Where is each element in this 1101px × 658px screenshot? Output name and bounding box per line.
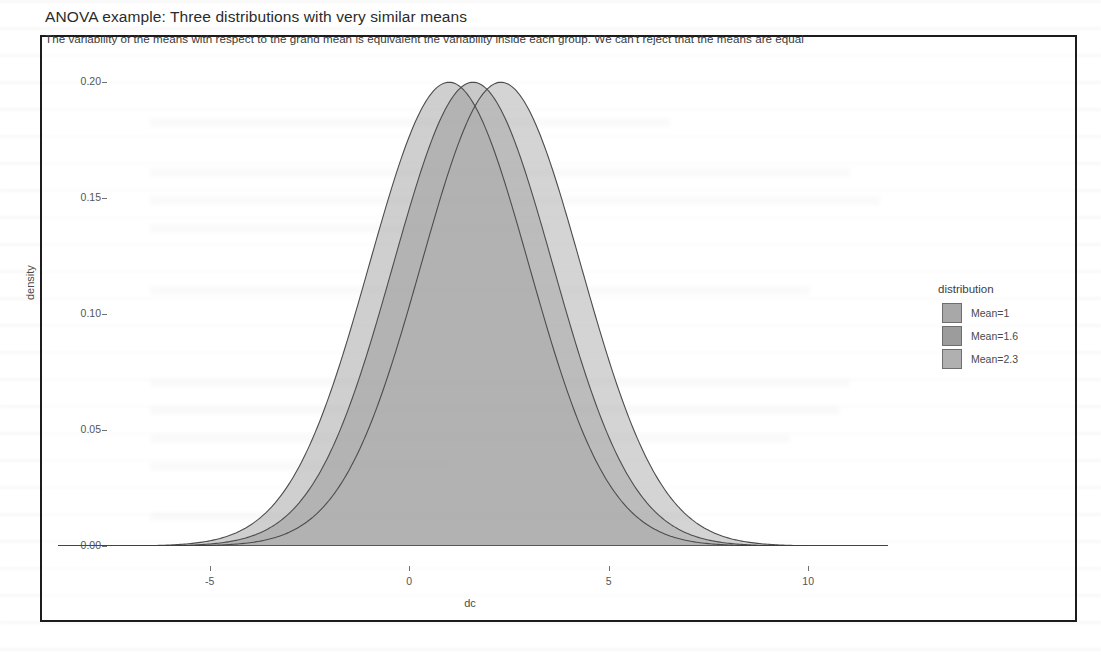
x-tick-label: -5 xyxy=(205,575,214,587)
legend-swatch-icon xyxy=(942,349,962,369)
legend-item[interactable]: Mean=2.3 xyxy=(938,347,1063,370)
x-tick-label: 0 xyxy=(406,575,412,587)
legend-item[interactable]: Mean=1.6 xyxy=(938,324,1063,347)
legend-swatch-icon xyxy=(942,303,962,323)
x-tick-mark xyxy=(409,566,410,571)
x-axis-ticks: -50510 xyxy=(0,0,1101,658)
x-axis-title: dc xyxy=(464,597,476,609)
x-tick-mark xyxy=(808,566,809,571)
x-tick-mark xyxy=(210,566,211,571)
legend-swatch-icon xyxy=(942,326,962,346)
x-tick-label: 10 xyxy=(802,575,814,587)
x-tick-label: 5 xyxy=(606,575,612,587)
legend-items: Mean=1Mean=1.6Mean=2.3 xyxy=(938,301,1063,370)
legend-item-label: Mean=2.3 xyxy=(971,353,1018,365)
legend-item[interactable]: Mean=1 xyxy=(938,301,1063,324)
legend-item-label: Mean=1.6 xyxy=(971,330,1018,342)
x-tick-mark xyxy=(609,566,610,571)
legend-title: distribution xyxy=(938,283,1063,295)
legend: distribution Mean=1Mean=1.6Mean=2.3 xyxy=(938,283,1063,370)
legend-item-label: Mean=1 xyxy=(971,307,1009,319)
